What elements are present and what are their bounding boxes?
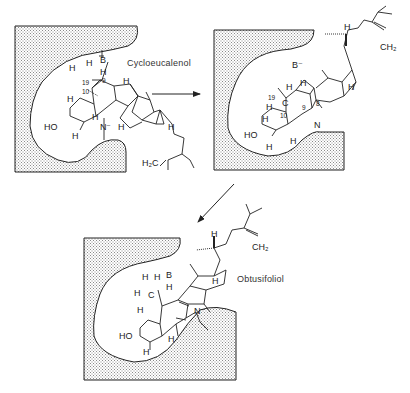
label-methylene: CH₂ (380, 42, 397, 52)
label-h-ringA-top: H (137, 305, 144, 315)
label-pos9: 9 (302, 104, 306, 111)
label-base: B⁻ (292, 60, 303, 70)
panel-intermediate: B⁻ H H 19 C H 10 9 8 H H H HO N H H CH₂ (214, 6, 397, 170)
enzyme-pocket (15, 26, 138, 172)
label-carbon: C (148, 290, 155, 300)
label-base: B (166, 270, 172, 280)
label-h-left: H (69, 63, 76, 73)
cycloeucalenol-structure (70, 50, 194, 170)
label-nucleophile: N (314, 120, 321, 130)
label-h-c19-top: H (286, 82, 293, 92)
enzyme-pocket (84, 238, 236, 380)
compound-name-cycloeucalenol: Cycloeucalenol (127, 58, 191, 68)
label-pos19: 19 (82, 79, 90, 86)
label-h-ringA-bottom: H (143, 347, 150, 357)
reaction-arrow-2 (198, 184, 234, 222)
label-h-c-left: H (134, 288, 141, 298)
label-h-top: H (86, 58, 93, 68)
label-carbon: C (282, 98, 289, 108)
label-hydroxyl: HO (244, 130, 258, 140)
panel-cycloeucalenol: B H H H 19 9 10 H H H H HO N⁻ H H H₂C Cy… (15, 26, 194, 172)
label-h-ringA-bottom: H (266, 142, 273, 152)
label-h-d-ring: H (118, 122, 125, 132)
label-h-c19-left: H (266, 102, 273, 112)
label-hydroxyl: HO (44, 122, 58, 132)
label-pos10: 10 (280, 112, 288, 119)
label-h-top: H (300, 78, 307, 88)
compound-name-obtusifoliol: Obtusifoliol (237, 274, 284, 284)
label-h-d-ring: H (348, 82, 355, 92)
label-pos8: 8 (316, 100, 320, 107)
label-h-mid: H (290, 136, 297, 146)
label-base-h: H (166, 282, 173, 292)
panel-obtusifoliol: B H H H H C H H H HO N⁻ H H CH₂ Obtusifo… (84, 204, 284, 380)
label-methylene: H₂C (142, 158, 159, 168)
label-h-mid: H (92, 112, 99, 122)
label-h-ringA-top: H (67, 94, 74, 104)
label-h-d-ring: H (212, 276, 219, 286)
label-pos10: 10 (82, 88, 90, 95)
label-h-mid: H (168, 334, 175, 344)
label-pos19: 19 (268, 94, 276, 101)
label-h-side: H (211, 229, 218, 239)
label-hydroxyl: HO (119, 331, 133, 341)
label-h-side: H (168, 122, 175, 132)
enzyme-pocket (214, 30, 344, 170)
label-h-ring-right: H (123, 76, 130, 86)
reaction-diagram: B H H H 19 9 10 H H H H HO N⁻ H H H₂C Cy… (0, 0, 410, 393)
label-pos9: 9 (102, 77, 106, 84)
label-h-c-top2: H (154, 272, 161, 282)
label-base-h: H (100, 67, 107, 77)
label-base: B (100, 55, 106, 65)
label-methylene: CH₂ (252, 242, 269, 252)
label-nucleophile: N⁻ (100, 122, 112, 132)
label-h-ringA-top: H (262, 114, 269, 124)
label-h-c-top1: H (142, 272, 149, 282)
label-h-side: H (344, 22, 351, 32)
label-nucleophile: N⁻ (194, 306, 206, 316)
label-h-ringA-bottom: H (72, 131, 79, 141)
